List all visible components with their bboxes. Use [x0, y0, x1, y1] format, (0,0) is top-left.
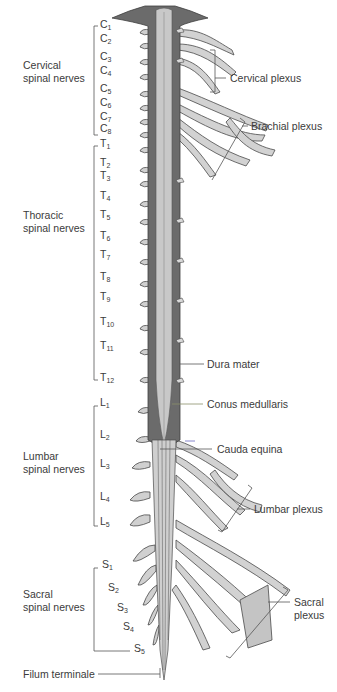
segment-label-s2: S2: [108, 582, 119, 596]
segment-label-t5: T5: [100, 209, 110, 223]
segment-label-t1: T1: [100, 138, 110, 152]
dura-mater-label: Dura mater: [207, 358, 260, 370]
conus-medullaris-label: Conus medullaris: [207, 398, 288, 410]
segment-label-t10: T10: [100, 316, 114, 330]
segment-label-t6: T6: [100, 230, 110, 244]
thoracic-group-label: Thoracic spinal nerves: [23, 209, 85, 234]
segment-label-s1: S1: [102, 559, 113, 573]
segment-label-l4: L4: [100, 491, 110, 505]
segment-label-c4: C4: [100, 65, 112, 79]
segment-label-c2: C2: [100, 33, 112, 47]
segment-label-l5: L5: [100, 516, 110, 530]
group-label-line: Thoracic: [23, 209, 85, 222]
group-label-line: spinal nerves: [23, 72, 85, 85]
group-label-line: spinal nerves: [23, 601, 85, 614]
group-label-line: Sacral: [23, 588, 85, 601]
segment-label-s5: S5: [134, 643, 145, 657]
sacral-plexus-label: Sacral plexus: [294, 596, 324, 621]
group-label-line: Cervical: [23, 59, 85, 72]
segment-label-c8: C8: [100, 123, 112, 137]
segment-label-c3: C3: [100, 51, 112, 65]
segment-label-s3: S3: [117, 602, 128, 616]
group-label-line: spinal nerves: [23, 222, 85, 235]
cervical-group-label: Cervical spinal nerves: [23, 59, 85, 84]
cauda-equina-label: Cauda equina: [217, 443, 282, 455]
cervical-plexus-label: Cervical plexus: [230, 72, 301, 84]
segment-label-l2: L2: [100, 429, 110, 443]
segment-label-t4: T4: [100, 190, 110, 204]
segment-label-c6: C6: [100, 97, 112, 111]
group-label-line: spinal nerves: [23, 463, 85, 476]
lumbar-plexus-label: Lumbar plexus: [254, 503, 323, 515]
segment-label-t11: T11: [100, 340, 114, 354]
segment-label-c1: C1: [100, 19, 112, 33]
segment-label-s4: S4: [123, 621, 134, 635]
segment-label-t7: T7: [100, 249, 110, 263]
sacral-group-label: Sacral spinal nerves: [23, 588, 85, 613]
brachial-plexus-label: Brachial plexus: [251, 120, 322, 132]
segment-label-l1: L1: [100, 397, 110, 411]
callout-line: Sacral: [294, 596, 324, 609]
callout-line: plexus: [294, 609, 324, 622]
segment-label-t9: T9: [100, 291, 110, 305]
segment-label-t12: T12: [100, 372, 114, 386]
spinal-nerves-diagram: Cervical spinal nerves Thoracic spinal n…: [0, 0, 337, 692]
segment-label-c5: C5: [100, 83, 112, 97]
group-label-line: Lumbar: [23, 450, 85, 463]
segment-label-l3: L3: [100, 458, 110, 472]
segment-label-t8: T8: [100, 271, 110, 285]
segment-label-t3: T3: [100, 170, 110, 184]
lumbar-group-label: Lumbar spinal nerves: [23, 450, 85, 475]
filum-terminale-label: Filum terminale: [23, 668, 95, 680]
